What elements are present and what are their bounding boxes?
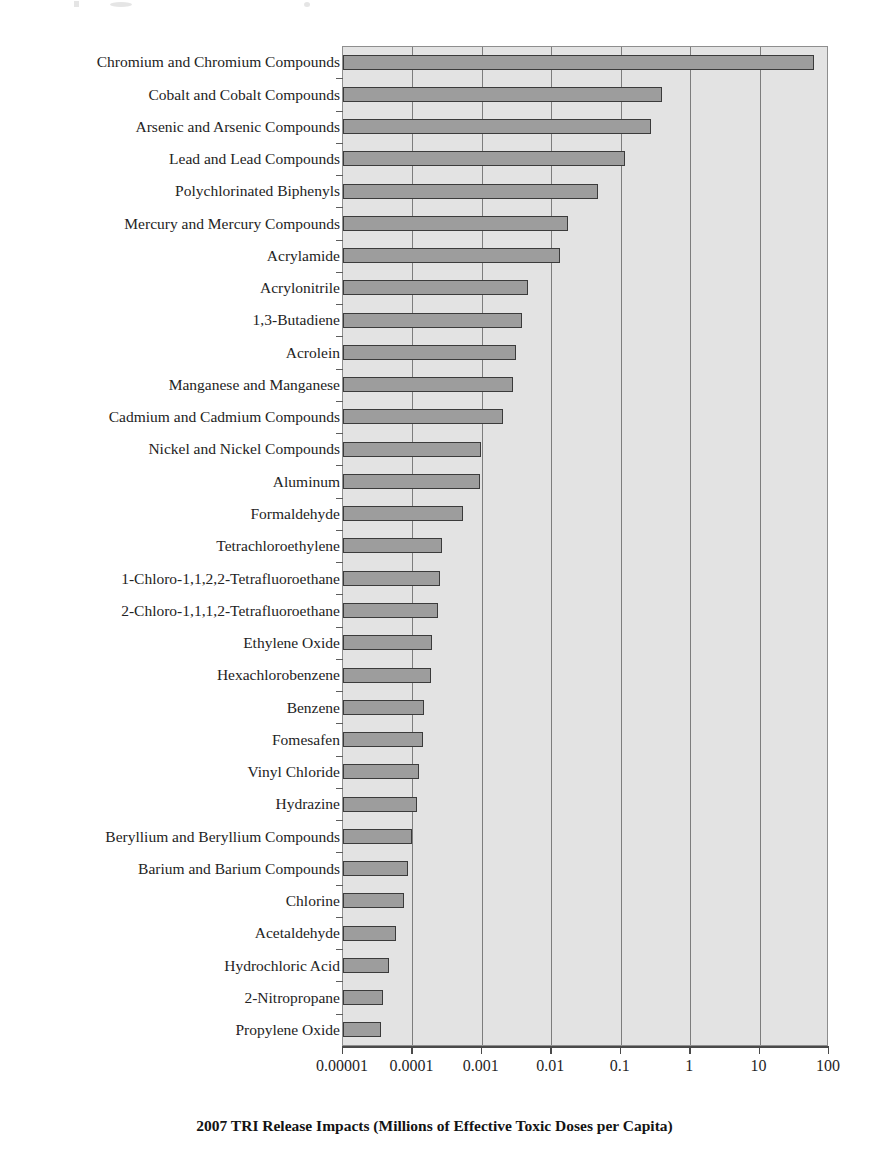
y-axis-tick xyxy=(336,885,343,886)
bar xyxy=(343,668,431,683)
bar xyxy=(343,345,516,360)
chart-row: Cadmium and Cadmium Compounds xyxy=(0,401,869,433)
y-axis-tick xyxy=(336,1014,343,1015)
category-label: Polychlorinated Biphenyls xyxy=(10,183,340,199)
x-axis-tick-label: 0.001 xyxy=(463,1057,499,1075)
y-axis-tick xyxy=(336,336,343,337)
category-rows: Chromium and Chromium CompoundsCobalt an… xyxy=(0,46,869,1046)
category-label: Barium and Barium Compounds xyxy=(10,861,340,877)
chart-row: Propylene Oxide xyxy=(0,1014,869,1046)
category-label: 2-Chloro-1,1,1,2-Tetrafluoroethane xyxy=(10,603,340,619)
bar xyxy=(343,829,412,844)
category-label: Cadmium and Cadmium Compounds xyxy=(10,409,340,425)
x-axis-tick-label: 0.1 xyxy=(610,1057,630,1075)
chart-row: Vinyl Chloride xyxy=(0,756,869,788)
x-axis-title: 2007 TRI Release Impacts (Millions of Ef… xyxy=(0,1117,869,1135)
bar xyxy=(343,926,396,941)
category-label: Beryllium and Beryllium Compounds xyxy=(10,829,340,845)
y-axis-tick xyxy=(336,111,343,112)
y-axis-tick xyxy=(336,594,343,595)
category-label: Chromium and Chromium Compounds xyxy=(10,54,340,70)
category-label: 1-Chloro-1,1,2,2-Tetrafluoroethane xyxy=(10,571,340,587)
chart-row: Hydrazine xyxy=(0,788,869,820)
chart-row: Lead and Lead Compounds xyxy=(0,143,869,175)
tri-release-impacts-bar-chart: Chromium and Chromium CompoundsCobalt an… xyxy=(0,0,869,1160)
category-label: Cobalt and Cobalt Compounds xyxy=(10,87,340,103)
y-axis-tick xyxy=(336,240,343,241)
category-label: Hydrochloric Acid xyxy=(10,958,340,974)
y-axis-tick xyxy=(336,691,343,692)
bar xyxy=(343,442,481,457)
y-axis-tick xyxy=(336,433,343,434)
bar xyxy=(343,958,389,973)
x-axis-tick-label: 10 xyxy=(751,1057,767,1075)
chart-row: Acetaldehyde xyxy=(0,917,869,949)
bar xyxy=(343,119,651,134)
y-axis-tick xyxy=(336,175,343,176)
y-axis-tick xyxy=(336,207,343,208)
chart-row: Beryllium and Beryllium Compounds xyxy=(0,820,869,852)
y-axis-tick xyxy=(336,949,343,950)
chart-row: 2-Chloro-1,1,1,2-Tetrafluoroethane xyxy=(0,594,869,626)
category-label: Fomesafen xyxy=(10,732,340,748)
category-label: Mercury and Mercury Compounds xyxy=(10,216,340,232)
x-axis-tick-label: 0.0001 xyxy=(389,1057,433,1075)
y-axis-tick xyxy=(336,369,343,370)
x-axis-tick-label: 1 xyxy=(685,1057,693,1075)
category-label: Acrolein xyxy=(10,345,340,361)
chart-row: Polychlorinated Biphenyls xyxy=(0,175,869,207)
x-axis-tick xyxy=(481,1046,482,1054)
chart-row: Aluminum xyxy=(0,465,869,497)
chart-row: 1-Chloro-1,1,2,2-Tetrafluoroethane xyxy=(0,562,869,594)
x-axis-tick-label: 100 xyxy=(816,1057,840,1075)
category-label: Nickel and Nickel Compounds xyxy=(10,441,340,457)
category-label: 1,3-Butadiene xyxy=(10,312,340,328)
chart-row: Hydrochloric Acid xyxy=(0,949,869,981)
y-axis-tick xyxy=(336,272,343,273)
bar xyxy=(343,313,522,328)
bar xyxy=(343,700,424,715)
x-axis-tick xyxy=(550,1046,551,1054)
category-label: Tetrachloroethylene xyxy=(10,538,340,554)
bar xyxy=(343,893,404,908)
bar xyxy=(343,55,814,70)
y-axis-tick xyxy=(336,498,343,499)
bar xyxy=(343,506,463,521)
chart-row: Chlorine xyxy=(0,885,869,917)
bar xyxy=(343,216,568,231)
x-axis-tick xyxy=(342,1046,343,1054)
x-axis-tick xyxy=(759,1046,760,1054)
chart-row: 1,3-Butadiene xyxy=(0,304,869,336)
category-label: Vinyl Chloride xyxy=(10,764,340,780)
scan-smudge-icon xyxy=(110,2,132,7)
chart-row: Acrylonitrile xyxy=(0,272,869,304)
bar xyxy=(343,635,432,650)
bar xyxy=(343,571,440,586)
chart-row: Ethylene Oxide xyxy=(0,627,869,659)
x-axis-tick-label: 0.00001 xyxy=(316,1057,368,1075)
scan-dot-icon xyxy=(304,2,310,7)
chart-row: Hexachlorobenzene xyxy=(0,659,869,691)
bar xyxy=(343,377,513,392)
x-axis-tick xyxy=(828,1046,829,1054)
y-axis-tick xyxy=(336,917,343,918)
bar xyxy=(343,861,408,876)
category-label: Arsenic and Arsenic Compounds xyxy=(10,119,340,135)
chart-row: Mercury and Mercury Compounds xyxy=(0,207,869,239)
y-axis-tick xyxy=(336,820,343,821)
x-axis-tick xyxy=(689,1046,690,1054)
chart-row: Cobalt and Cobalt Compounds xyxy=(0,78,869,110)
y-axis-tick xyxy=(336,304,343,305)
chart-row: Tetrachloroethylene xyxy=(0,530,869,562)
bar xyxy=(343,1022,381,1037)
category-label: Acrylonitrile xyxy=(10,280,340,296)
y-axis-tick xyxy=(336,530,343,531)
bar xyxy=(343,990,383,1005)
chart-row: Barium and Barium Compounds xyxy=(0,852,869,884)
y-axis-tick xyxy=(336,788,343,789)
y-axis-tick xyxy=(336,627,343,628)
scan-artifact-strip xyxy=(0,0,869,14)
x-axis-tick-label: 0.01 xyxy=(536,1057,564,1075)
y-axis-tick xyxy=(336,143,343,144)
y-axis-tick xyxy=(336,852,343,853)
